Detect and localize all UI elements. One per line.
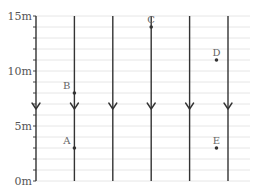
point-label: B [63,80,70,91]
point-b [73,91,77,95]
point-e [215,146,219,150]
point-c [149,25,153,29]
point-label: D [212,47,220,58]
y-axis-label: 5m [15,120,33,133]
point-d [215,58,219,62]
field-diagram: ABCDE 15m10m5m0m [0,0,260,191]
y-axis-label: 15m [8,10,33,23]
point-label: C [147,14,155,25]
y-axis-label: 0m [15,175,33,188]
y-axis-label: 10m [8,65,33,78]
horizontal-gridlines [36,16,250,181]
field-lines [32,16,232,181]
point-a [73,146,77,150]
y-axis-labels: 15m10m5m0m [8,10,33,188]
point-label: A [62,135,71,146]
point-label: E [213,135,220,146]
